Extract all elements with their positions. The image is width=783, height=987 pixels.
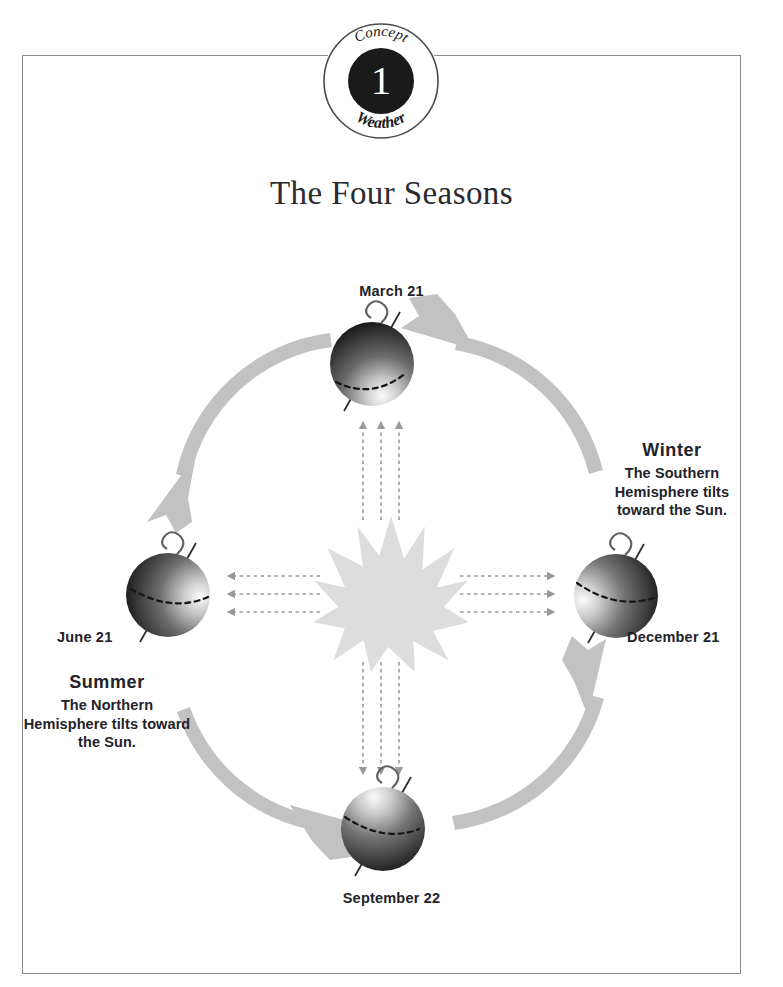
date-label-march: March 21	[0, 283, 783, 299]
orbit-arrow-june-to-september	[177, 707, 366, 860]
date-label-september: September 22	[0, 890, 783, 906]
earth-september-22	[341, 766, 425, 876]
annotation-summer-title: Summer	[23, 672, 191, 693]
badge-number: 1	[322, 58, 440, 102]
annotation-summer: Summer The Northern Hemisphere tilts tow…	[23, 672, 191, 752]
sun-ray-group-west	[230, 576, 320, 612]
date-label-june: June 21	[57, 629, 112, 645]
sun-ray-group-east	[460, 576, 552, 612]
sun-ray-group-south	[363, 662, 399, 772]
orbit-arrow-september-to-december	[452, 636, 606, 830]
orbit-arrow-march-to-june	[147, 333, 332, 533]
earth-june-21	[126, 532, 210, 642]
earth-march-21	[330, 301, 414, 411]
sun-starburst-icon	[313, 516, 469, 672]
sun-ray-group-north	[363, 424, 399, 520]
page-canvas: Concept Weather 1 The Four Seasons	[0, 0, 783, 987]
concept-badge: Concept Weather 1	[322, 22, 440, 140]
earth-december-21	[574, 533, 658, 643]
orbit-arrow-december-to-march	[401, 294, 603, 474]
annotation-winter: Winter The Southern Hemisphere tilts tow…	[592, 440, 752, 520]
date-label-december: December 21	[627, 629, 719, 645]
annotation-winter-title: Winter	[592, 440, 752, 461]
annotation-winter-body: The Southern Hemisphere tilts toward the…	[592, 464, 752, 520]
annotation-summer-body: The Northern Hemisphere tilts toward the…	[23, 696, 191, 752]
